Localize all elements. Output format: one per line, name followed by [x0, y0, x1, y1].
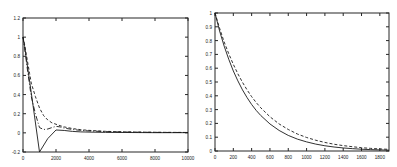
y-tick-label: 0.6: [14, 73, 21, 78]
x-tick-label: 1800: [375, 155, 386, 160]
x-tick-label: 600: [266, 155, 274, 160]
x-tick-label: 8000: [150, 156, 161, 161]
y-tick-label: 1.2: [14, 16, 21, 21]
series-solid: [215, 13, 389, 150]
y-tick-label: 0.1: [206, 135, 213, 140]
y-tick-label: 0.2: [14, 112, 21, 117]
y-tick-label: 0.6: [206, 66, 213, 71]
y-tick-label: 0.3: [206, 108, 213, 113]
y-tick-label: 0.8: [14, 54, 21, 59]
y-tick-label: 1: [209, 11, 212, 16]
plot-frame: [23, 18, 188, 152]
y-tick-label: 0: [17, 131, 20, 136]
series-dash-dot: [23, 37, 188, 132]
y-tick-label: 0.4: [206, 94, 213, 99]
chart-panel-right: 02004006008001000120014001600180000.10.2…: [197, 0, 397, 167]
x-tick-label: 1200: [320, 155, 331, 160]
y-tick-label: 0.2: [206, 121, 213, 126]
plot-frame: [215, 13, 389, 151]
x-tick-label: 0: [214, 155, 217, 160]
x-tick-label: 10000: [182, 156, 195, 161]
y-tick-label: 0.7: [206, 52, 213, 57]
x-tick-label: 1000: [301, 155, 312, 160]
y-tick-label: -0.2: [12, 150, 20, 155]
x-tick-label: 200: [229, 155, 237, 160]
x-tick-label: 0: [22, 156, 25, 161]
x-tick-label: 800: [284, 155, 292, 160]
y-tick-label: 0.5: [206, 80, 213, 85]
y-tick-label: 0: [209, 149, 212, 154]
y-tick-label: 0.9: [206, 25, 213, 30]
series-solid: [23, 37, 188, 152]
figure-root: 0200040006000800010000-0.200.20.40.60.81…: [0, 0, 397, 167]
y-tick-label: 0.4: [14, 93, 21, 98]
right-plot-svg: 02004006008001000120014001600180000.10.2…: [197, 0, 397, 167]
left-plot-svg: 0200040006000800010000-0.200.20.40.60.81…: [0, 0, 197, 167]
x-tick-label: 1600: [356, 155, 367, 160]
x-tick-label: 4000: [84, 156, 95, 161]
series-dashed: [23, 37, 188, 132]
y-tick-label: 1: [17, 35, 20, 40]
chart-panel-left: 0200040006000800010000-0.200.20.40.60.81…: [0, 0, 197, 167]
x-tick-label: 2000: [51, 156, 62, 161]
x-tick-label: 6000: [117, 156, 128, 161]
x-tick-label: 400: [248, 155, 256, 160]
x-tick-label: 1400: [338, 155, 349, 160]
series-dashed: [215, 13, 389, 149]
y-tick-label: 0.8: [206, 39, 213, 44]
